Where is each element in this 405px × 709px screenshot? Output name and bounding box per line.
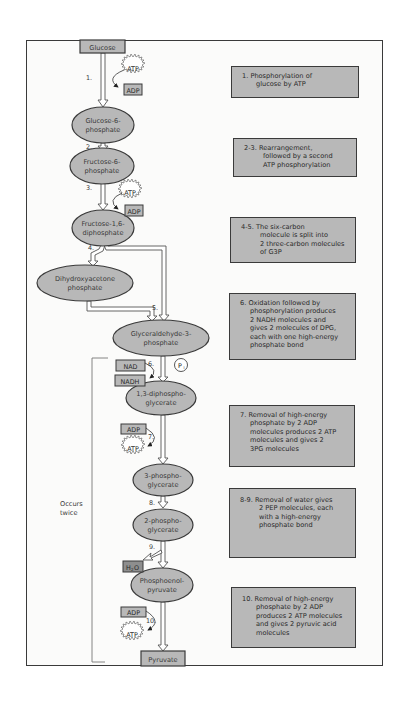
node-glucose-6-phosphate bbox=[72, 107, 134, 143]
step1-adp-box: ADP bbox=[124, 84, 142, 95]
description-step-6: 6. Oxidation followed by phosphorylation… bbox=[229, 293, 356, 360]
svg-text:O: O bbox=[134, 564, 139, 572]
svg-text:Fructose-6-: Fructose-6- bbox=[84, 158, 122, 166]
svg-text:glycerate: glycerate bbox=[148, 481, 179, 489]
svg-text:Dihydroxyacetone: Dihydroxyacetone bbox=[55, 275, 115, 283]
step3-atp-starburst-icon: ATP bbox=[118, 179, 142, 198]
svg-text:1.: 1. bbox=[86, 74, 92, 82]
description-step-1: 1. Phosphorylation of glucose by ATP bbox=[231, 66, 359, 98]
svg-text:phosphate: phosphate bbox=[85, 167, 120, 175]
description-step-4-5: 4-5. The six-carbon molecule is split in… bbox=[230, 217, 356, 263]
node-fructose-6-phosphate bbox=[70, 148, 134, 184]
occurs-twice-label: Occurs twice bbox=[60, 500, 83, 517]
description-step-10: 10. Removal of high-energy phosphate by … bbox=[231, 587, 356, 648]
svg-text:phosphate: phosphate bbox=[86, 126, 121, 134]
step3-adp-box: ADP bbox=[125, 205, 143, 216]
node-glyceraldehyde-3-phosphate bbox=[113, 320, 209, 356]
svg-text:ADP: ADP bbox=[127, 609, 140, 617]
svg-text:NAD: NAD bbox=[123, 363, 137, 371]
step10-atp-starburst-icon: ATP bbox=[120, 621, 144, 640]
svg-text:glycerate: glycerate bbox=[146, 399, 177, 407]
svg-text:glycerate: glycerate bbox=[148, 526, 179, 534]
node-3-phosphoglycerate bbox=[133, 464, 193, 496]
step6-nad-box: NAD bbox=[116, 360, 145, 371]
occurs-label-line: twice bbox=[60, 509, 83, 518]
step7-atp-starburst-icon: ATP bbox=[121, 435, 145, 454]
svg-text:ADP: ADP bbox=[127, 208, 140, 216]
node-2-phosphoglycerate bbox=[133, 509, 193, 541]
svg-text:ATP: ATP bbox=[127, 445, 139, 453]
step7-adp-box: ADP bbox=[121, 424, 146, 434]
svg-text:9.: 9. bbox=[149, 543, 155, 551]
svg-text:diphosphate: diphosphate bbox=[83, 229, 124, 237]
phosphate-pi-circle: P i bbox=[175, 359, 188, 372]
pyruvate-box: Pyruvate bbox=[141, 651, 185, 666]
node-dihydroxyacetone-phosphate bbox=[37, 265, 133, 301]
svg-text:5.: 5. bbox=[152, 304, 158, 312]
svg-text:Pyruvate: Pyruvate bbox=[148, 656, 177, 664]
svg-text:3-phospho-: 3-phospho- bbox=[144, 472, 182, 480]
svg-text:4.: 4. bbox=[88, 244, 94, 252]
svg-text:pyruvate: pyruvate bbox=[147, 586, 177, 594]
svg-text:ATP: ATP bbox=[127, 65, 139, 73]
svg-text:Phosphoenol-: Phosphoenol- bbox=[140, 577, 185, 585]
occurs-label-line: Occurs bbox=[60, 500, 83, 509]
svg-text:i: i bbox=[184, 365, 185, 370]
svg-text:Glucose-6-: Glucose-6- bbox=[85, 117, 121, 125]
step9-water-box: H 2 O bbox=[123, 561, 143, 572]
node-phosphoenolpyruvate bbox=[131, 568, 193, 602]
svg-text:phosphate: phosphate bbox=[68, 284, 103, 292]
step10-adp-box: ADP bbox=[121, 607, 146, 617]
svg-text:ATP: ATP bbox=[124, 189, 136, 197]
svg-text:1,3-diphospho-: 1,3-diphospho- bbox=[136, 390, 186, 398]
svg-text:Glyceraldehyde-3-: Glyceraldehyde-3- bbox=[131, 330, 192, 338]
svg-text:Fructose-1,6-: Fructose-1,6- bbox=[81, 220, 125, 228]
description-step-8-9: 8-9. Removal of water gives 2 PEP molecu… bbox=[229, 488, 356, 558]
occurs-twice-bracket bbox=[92, 358, 108, 662]
svg-text:Glucose: Glucose bbox=[89, 44, 115, 52]
glucose-box: Glucose bbox=[80, 40, 125, 53]
step1-atp-starburst-icon: ATP bbox=[121, 54, 145, 73]
svg-text:2.: 2. bbox=[86, 143, 92, 151]
description-step-2-3: 2-3. Rearrangement, followed by a second… bbox=[233, 138, 357, 177]
svg-text:ADP: ADP bbox=[126, 87, 139, 95]
svg-text:ATP: ATP bbox=[126, 631, 138, 639]
step6-nadh-box: NADH bbox=[115, 375, 145, 386]
description-step-7: 7. Removal of high-energy phosphate by 2… bbox=[229, 405, 355, 467]
svg-text:ADP: ADP bbox=[127, 426, 140, 434]
svg-text:2-phospho-: 2-phospho- bbox=[144, 517, 182, 525]
svg-text:8.: 8. bbox=[149, 499, 155, 507]
svg-text:phosphate: phosphate bbox=[144, 339, 179, 347]
svg-text:NADH: NADH bbox=[121, 378, 140, 386]
svg-text:P: P bbox=[178, 362, 182, 370]
svg-text:3.: 3. bbox=[86, 184, 92, 192]
